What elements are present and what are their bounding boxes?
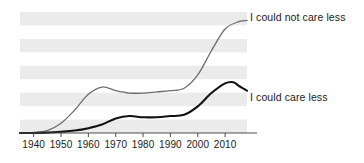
gridline-bands: [20, 12, 247, 133]
chart-container: I could not care less I could care less …: [0, 0, 364, 163]
x-axis-tick-label: 1980: [132, 139, 155, 150]
series-label-could-care-less: I could care less: [250, 91, 328, 103]
x-axis: [20, 133, 257, 137]
x-axis-tick-label: 1950: [50, 139, 73, 150]
x-axis-tick-label: 1960: [77, 139, 100, 150]
series-label-could-not-care-less: I could not care less: [250, 11, 345, 23]
gridline-band: [20, 66, 247, 79]
gridline-band: [20, 120, 247, 133]
x-axis-tick-label: 2000: [186, 139, 209, 150]
x-axis-tick-label: 1990: [159, 139, 182, 150]
gridline-band: [20, 93, 247, 106]
x-axis-tick-label: 2010: [214, 139, 237, 150]
x-axis-tick-label: 1940: [22, 139, 45, 150]
gridline-band: [20, 39, 247, 52]
gridline-band: [20, 12, 247, 25]
x-axis-tick-label: 1970: [104, 139, 127, 150]
